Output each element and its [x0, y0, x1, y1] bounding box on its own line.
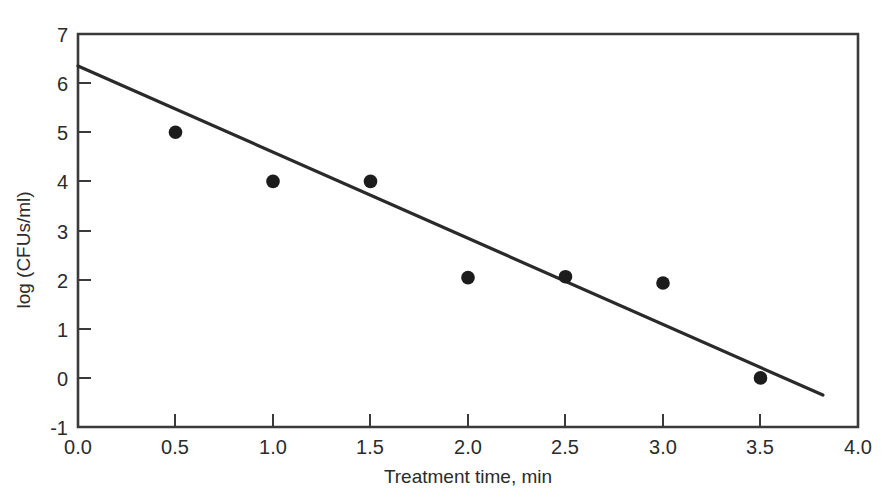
data-point	[266, 175, 280, 189]
y-tick-label-4: 4	[57, 171, 68, 193]
figure-container: 7 6 5 4 3 2 1 0 -1 0.0 0.5 1.0 1.	[0, 0, 894, 496]
x-tick-label-1-0: 1.0	[259, 436, 287, 458]
data-point	[754, 371, 768, 385]
x-tick-label-0-0: 0.0	[64, 436, 92, 458]
data-point	[559, 270, 573, 284]
x-tick-label-2-5: 2.5	[551, 436, 579, 458]
x-tick-label-1-5: 1.5	[356, 436, 384, 458]
x-axis-tick-labels: 0.0 0.5 1.0 1.5 2.0 2.5 3.0 3.5 4.0	[64, 436, 872, 458]
data-point	[461, 271, 475, 285]
y-axis-title: log (CFUs/ml)	[13, 191, 34, 308]
data-point	[364, 175, 378, 189]
y-tick-label-7: 7	[57, 24, 68, 46]
x-tick-label-3-0: 3.0	[649, 436, 677, 458]
y-tick-label-0: 0	[57, 368, 68, 390]
y-tick-label-6: 6	[57, 73, 68, 95]
x-tick-label-2-0: 2.0	[454, 436, 482, 458]
data-point	[656, 276, 670, 290]
x-axis-title: Treatment time, min	[384, 466, 552, 487]
x-tick-label-4-0: 4.0	[844, 436, 872, 458]
scatter-plot: 7 6 5 4 3 2 1 0 -1 0.0 0.5 1.0 1.	[0, 0, 894, 496]
y-tick-label-2: 2	[57, 270, 68, 292]
x-tick-label-3-5: 3.5	[746, 436, 774, 458]
y-tick-label-3: 3	[57, 221, 68, 243]
y-tick-label-5: 5	[57, 122, 68, 144]
data-point	[169, 125, 183, 139]
x-tick-label-0-5: 0.5	[161, 436, 189, 458]
y-tick-label-1: 1	[57, 319, 68, 341]
